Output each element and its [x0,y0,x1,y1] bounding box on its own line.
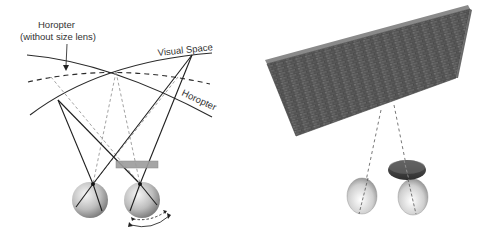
dashed-sight-lines [51,72,178,212]
label-horopter: Horopter [180,87,218,113]
right-panel-wall-scene [265,5,472,215]
scene-size-lens [388,160,426,180]
size-lens [116,161,158,168]
label-horopter-without-lens-line1: Horopter [38,19,75,30]
arrow-down-icon [63,44,69,71]
label-horopter-without-lens-line2: (without size lens) [20,31,96,42]
left-panel-horopter-diagram: Horopter (without size lens) Visual Spac… [20,19,218,227]
figure-canvas: Horopter (without size lens) Visual Spac… [0,0,489,236]
scene-left-eye [347,178,377,214]
scene-right-eye [398,179,428,215]
visual-space-curve [30,53,212,115]
brick-wall [267,9,470,136]
left-eye [72,182,108,218]
right-eye [124,182,160,218]
